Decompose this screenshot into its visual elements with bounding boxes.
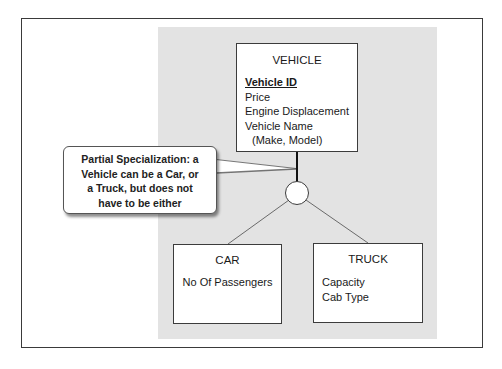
entity-title: TRUCK: [314, 252, 422, 266]
attribute: Capacity: [322, 275, 422, 290]
attribute: Engine Displacement: [245, 104, 357, 119]
callout-line: have to be either: [64, 196, 216, 211]
specialization-circle-icon: [286, 182, 309, 205]
truck-connector: [306, 200, 368, 243]
attribute: Price: [245, 90, 357, 105]
attribute: Vehicle Name: [245, 119, 357, 134]
callout-line: Vehicle can be a Car, or: [64, 167, 216, 182]
partial-specialization-callout: Partial Specialization: a Vehicle can be…: [63, 146, 217, 214]
callout-line: Partial Specialization: a: [64, 152, 216, 167]
callout-line: a Truck, but does not: [64, 181, 216, 196]
primary-key-attribute: Vehicle ID: [245, 75, 357, 90]
entity-vehicle[interactable]: VEHICLE Vehicle ID Price Engine Displace…: [236, 43, 358, 152]
attribute-composite-detail: (Make, Model): [245, 133, 357, 148]
attribute: No Of Passengers: [174, 275, 281, 290]
attribute: Cab Type: [322, 290, 422, 305]
car-connector: [228, 200, 289, 244]
entity-car[interactable]: CAR No Of Passengers: [173, 244, 282, 324]
entity-title: CAR: [174, 253, 281, 267]
entity-title: VEHICLE: [237, 53, 357, 67]
entity-truck[interactable]: TRUCK Capacity Cab Type: [313, 243, 423, 323]
